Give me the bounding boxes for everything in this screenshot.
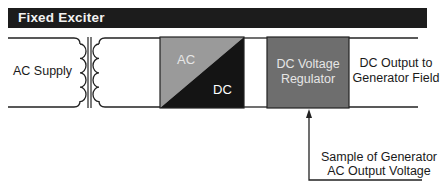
rectifier-block (160, 37, 244, 108)
regulator-label-line2: Regulator (267, 72, 349, 87)
sample-label-line1: Sample of Generator (315, 150, 442, 165)
rectifier-dc-label: DC (213, 82, 232, 97)
transformer-secondary-coil-icon (93, 38, 160, 107)
transformer-core-icon (88, 37, 91, 108)
rectifier-ac-label: AC (177, 52, 195, 67)
regulator-label-line1: DC Voltage (267, 57, 349, 72)
link-lines (244, 38, 267, 107)
output-label-line2: Generator Field (350, 71, 442, 86)
transformer-primary-coil-icon (80, 44, 86, 102)
ac-supply-label: AC Supply (13, 64, 72, 79)
sample-label-line2: AC Output Voltage (315, 164, 442, 179)
arrow-up-icon (306, 109, 312, 118)
output-label-line1: DC Output to (350, 56, 442, 71)
